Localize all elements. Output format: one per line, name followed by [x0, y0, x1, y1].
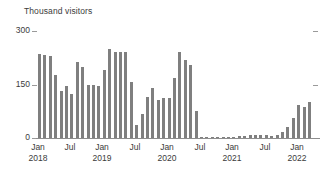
y-axis-title: Thousand visitors [24, 6, 92, 16]
x-tick-jan-2022: Jan 2022 [277, 142, 317, 164]
bar [162, 98, 165, 138]
bar [43, 55, 46, 138]
y-tick-label-300: 300 [4, 25, 30, 35]
bar [97, 86, 100, 138]
bar [87, 85, 90, 138]
y-tick-mark-150 [32, 85, 37, 86]
bar [49, 56, 52, 138]
bar [60, 91, 63, 138]
bar [141, 114, 144, 138]
bar [303, 107, 306, 138]
x-tick-year: 2019 [82, 153, 122, 164]
bar [54, 75, 57, 138]
bar [308, 102, 311, 138]
y-tick-mark-300 [32, 31, 37, 32]
bar [146, 97, 149, 138]
bar [38, 54, 41, 138]
x-tick-year: 2022 [277, 153, 317, 164]
bar [292, 118, 295, 138]
bar [103, 70, 106, 138]
bar [76, 62, 79, 138]
visitors-bar-chart: Thousand visitors 300 150 0 Jan 2018 Jul… [0, 0, 331, 171]
bar [195, 111, 198, 138]
x-tick-year: 2021 [212, 153, 252, 164]
x-axis-line [36, 138, 320, 139]
bar [286, 127, 289, 138]
bar [108, 49, 111, 138]
bar [130, 82, 133, 138]
x-tick-year: 2018 [18, 153, 58, 164]
bar [168, 98, 171, 138]
bar [124, 52, 127, 138]
y-tick-label-0: 0 [4, 132, 30, 142]
y-tick-label-150: 150 [4, 79, 30, 89]
bar [178, 52, 181, 138]
bar [135, 125, 138, 138]
bar [92, 85, 95, 138]
bar [65, 86, 68, 138]
bar [297, 105, 300, 138]
plot-area [38, 30, 318, 138]
bar [70, 94, 73, 138]
x-tick-year: 2020 [147, 153, 187, 164]
bar [151, 88, 154, 138]
bar [114, 52, 117, 138]
x-tick-month: Jan [277, 142, 317, 153]
bar [157, 100, 160, 138]
bar [184, 60, 187, 138]
bar [81, 67, 84, 138]
bar [173, 78, 176, 138]
bar [119, 52, 122, 138]
bar [189, 65, 192, 138]
